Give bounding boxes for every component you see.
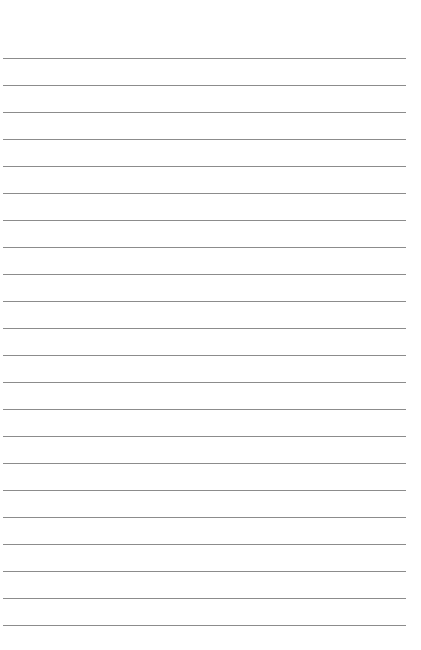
ruled-line bbox=[3, 625, 406, 626]
ruled-line bbox=[3, 463, 406, 464]
ruled-line bbox=[3, 409, 406, 410]
ruled-line bbox=[3, 436, 406, 437]
ruled-line bbox=[3, 220, 406, 221]
ruled-line bbox=[3, 193, 406, 194]
ruled-line bbox=[3, 274, 406, 275]
ruled-line bbox=[3, 517, 406, 518]
ruled-line bbox=[3, 85, 406, 86]
ruled-line bbox=[3, 382, 406, 383]
ruled-line bbox=[3, 166, 406, 167]
ruled-line bbox=[3, 355, 406, 356]
ruled-line bbox=[3, 544, 406, 545]
ruled-line bbox=[3, 571, 406, 572]
ruled-line bbox=[3, 139, 406, 140]
ruled-line bbox=[3, 328, 406, 329]
ruled-line bbox=[3, 598, 406, 599]
ruled-line bbox=[3, 112, 406, 113]
ruled-line bbox=[3, 301, 406, 302]
ruled-line bbox=[3, 490, 406, 491]
ruled-line bbox=[3, 58, 406, 59]
ruled-line bbox=[3, 247, 406, 248]
lined-paper-page bbox=[0, 0, 421, 650]
